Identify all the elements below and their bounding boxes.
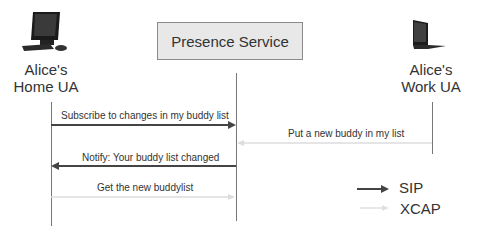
legend-sip-label: SIP: [399, 179, 423, 196]
legend-xcap-label: XCAP: [400, 200, 441, 217]
